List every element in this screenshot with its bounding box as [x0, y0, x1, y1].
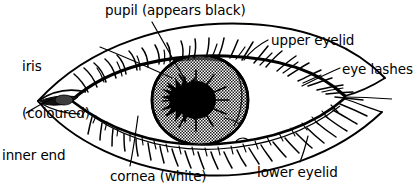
label-inner-end-of-eye: inner end of eye [2, 117, 66, 195]
label-pupil: pupil (appears black) [105, 3, 246, 19]
label-inner-line2: of eye [2, 195, 66, 196]
label-cornea: cornea (white) [110, 169, 207, 185]
outer-corner-crease-2 [345, 99, 382, 112]
label-lower-eyelid: lower eyelid [257, 165, 338, 181]
outer-corner-crease-1 [345, 78, 385, 96]
label-upper-eyelid: upper eyelid [271, 33, 354, 49]
pupil-disc [176, 81, 216, 119]
label-iris-line1: iris [22, 59, 90, 75]
label-inner-line1: inner end [2, 148, 66, 164]
eye-anatomy-diagram: pupil (appears black) iris (coloured) up… [0, 0, 417, 195]
label-eye-lashes: eye lashes [342, 62, 413, 78]
